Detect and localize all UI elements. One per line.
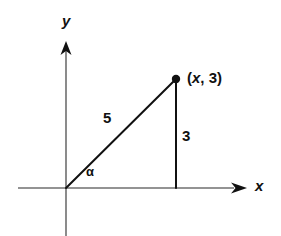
point-y-value: 3 [209, 69, 217, 86]
hypotenuse-line [66, 79, 176, 188]
point-close-paren: ) [217, 69, 222, 86]
diagram-canvas [0, 0, 281, 236]
x-axis-label: x [255, 178, 263, 193]
triangle-diagram: y x 5 3 α (x, 3) [0, 0, 281, 236]
point-coordinates-label: (x, 3) [187, 70, 222, 85]
y-axis-label: y [62, 13, 70, 28]
angle-alpha-label: α [86, 165, 94, 178]
point-separator: , [200, 69, 208, 86]
hypotenuse-length-label: 5 [103, 110, 111, 125]
point-marker [172, 75, 180, 83]
opposite-side-length-label: 3 [182, 128, 190, 143]
